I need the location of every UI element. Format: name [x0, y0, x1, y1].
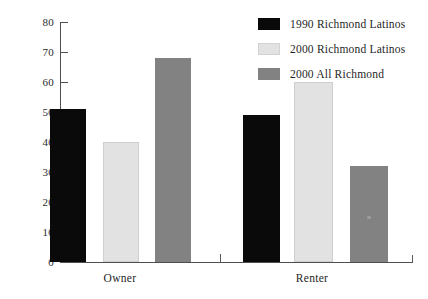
bar-owner-2000-all-richmond — [155, 58, 191, 262]
y-axis-label-text: 30 — [20, 167, 54, 178]
bar-renter-2000-all-richmond — [350, 166, 388, 262]
y-axis-label-70: 70 — [14, 47, 54, 58]
y-axis-label-text: 60 — [20, 77, 54, 88]
legend: 1990 Richmond Latinos 2000 Richmond Lati… — [258, 11, 428, 86]
y-axis-label-40: 40 — [14, 137, 54, 148]
legend-item-2000-all-richmond: 2000 All Richmond — [258, 61, 428, 86]
bar-renter-1990-richmond-latinos — [243, 115, 280, 262]
legend-label: 2000 Richmond Latinos — [290, 43, 405, 55]
y-axis-label-text: 0 — [20, 257, 54, 268]
legend-item-1990-richmond-latinos: 1990 Richmond Latinos — [258, 11, 428, 36]
y-axis-label-text: 20 — [20, 197, 54, 208]
y-axis-label-text: 10 — [20, 227, 54, 238]
legend-swatch-icon — [258, 68, 280, 80]
plot-area: 80 70 60 50 40 30 20 10 0 Owner — [0, 0, 428, 299]
y-axis-label-0: 0 — [14, 257, 54, 268]
y-axis-label-10: 10 — [14, 227, 54, 238]
y-axis-label-text: 40 — [20, 137, 54, 148]
y-axis-tick — [61, 22, 68, 23]
bar-owner-1990-richmond-latinos — [50, 109, 86, 262]
bar-chart: 80 70 60 50 40 30 20 10 0 Owner — [0, 0, 428, 299]
legend-label: 1990 Richmond Latinos — [290, 18, 405, 30]
legend-item-2000-richmond-latinos: 2000 Richmond Latinos — [258, 36, 428, 61]
y-axis-label-text: 70 — [20, 47, 54, 58]
y-axis-label-text: 50 — [20, 107, 54, 118]
y-axis-label-80: 80 — [14, 17, 54, 28]
legend-label: 2000 All Richmond — [290, 68, 384, 80]
y-axis-label-50: 50 — [14, 107, 54, 118]
legend-swatch-icon — [258, 18, 280, 30]
x-axis-right-cap — [412, 255, 413, 263]
legend-swatch-icon — [258, 43, 280, 55]
y-axis-tick — [61, 82, 68, 83]
bar-renter-2000-richmond-latinos — [294, 82, 333, 262]
y-axis-label-60: 60 — [14, 77, 54, 88]
y-axis-label-30: 30 — [14, 167, 54, 178]
x-axis-label-renter: Renter — [272, 272, 352, 284]
bar-owner-2000-richmond-latinos — [103, 142, 139, 262]
y-axis-label-20: 20 — [14, 197, 54, 208]
x-axis-line — [60, 262, 413, 263]
y-axis-label-text: 80 — [20, 17, 54, 28]
y-axis-tick — [61, 52, 68, 53]
x-axis-group-separator — [220, 254, 221, 263]
x-axis-label-owner: Owner — [80, 272, 160, 284]
scan-speck — [367, 216, 371, 219]
